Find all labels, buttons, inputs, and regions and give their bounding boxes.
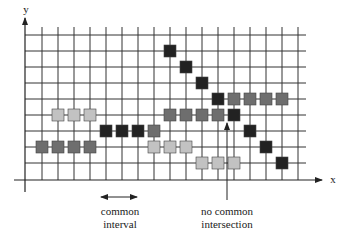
interval-square-dark-gray [276,93,288,105]
interval-square-black [244,125,256,137]
interval-square-dark-gray [244,93,256,105]
interval-square-dark-gray [180,109,192,121]
interval-square-dark-gray [212,109,224,121]
interval-square-dark-gray [148,125,160,137]
interval-square-light-gray [68,109,80,121]
interval-square-dark-gray [228,93,240,105]
common-interval-label: common interval [90,205,150,231]
interval-square-black [212,93,224,105]
interval-square-black [228,109,240,121]
interval-square-dark-gray [164,109,176,121]
common-interval-line1: common [90,205,150,218]
x-axis-label: x [327,173,339,186]
no-common-intersection-line2: intersection [192,218,262,231]
interval-square-black [196,77,208,89]
y-axis-label: y [20,3,32,16]
interval-square-dark-gray [84,141,96,153]
interval-square-black [164,45,176,57]
interval-square-black [116,125,128,137]
interval-square-black [100,125,112,137]
no-common-intersection-line1: no common [192,205,262,218]
interval-square-dark-gray [68,141,80,153]
interval-square-dark-gray [36,141,48,153]
interval-square-light-gray [84,109,96,121]
no-common-intersection-label: no common intersection [192,205,262,231]
interval-square-black [132,125,144,137]
interval-square-black [276,157,288,169]
interval-square-light-gray [228,157,240,169]
common-interval-line2: interval [90,218,150,231]
interval-square-light-gray [180,141,192,153]
interval-square-dark-gray [260,93,272,105]
interval-square-black [180,61,192,73]
interval-square-dark-gray [196,109,208,121]
interval-square-black [260,141,272,153]
interval-grid-diagram [0,0,353,240]
interval-square-dark-gray [52,141,64,153]
interval-square-light-gray [164,141,176,153]
interval-square-light-gray [212,157,224,169]
interval-square-light-gray [196,157,208,169]
interval-square-light-gray [52,109,64,121]
interval-square-light-gray [148,141,160,153]
